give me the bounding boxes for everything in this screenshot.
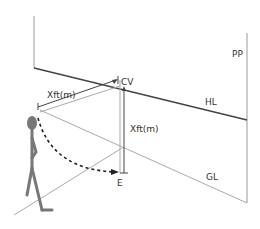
- label-gl: GL: [206, 172, 218, 182]
- label-e: E: [117, 178, 123, 188]
- perspective-diagram: PP HL GL CV E Xft(m) Xft(m): [0, 0, 260, 229]
- label-distance-horizontal: Xft(m): [47, 90, 76, 100]
- label-pp: PP: [232, 49, 243, 59]
- arrowhead-right: [112, 79, 118, 84]
- label-distance-vertical: Xft(m): [130, 124, 159, 134]
- label-hl: HL: [205, 97, 217, 107]
- label-cv: CV: [121, 77, 134, 87]
- stick-figure-icon: [27, 116, 52, 210]
- arc-arrowhead: [111, 169, 119, 175]
